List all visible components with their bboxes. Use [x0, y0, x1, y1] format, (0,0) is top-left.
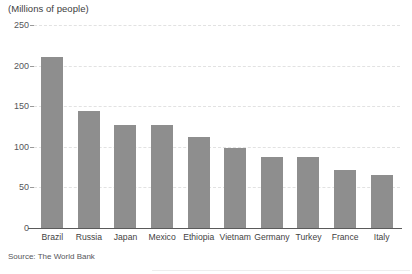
bar-slot: [144, 25, 181, 228]
bar: [114, 125, 136, 228]
bar-slot: [107, 25, 144, 228]
bar: [371, 175, 393, 228]
bar: [78, 111, 100, 228]
bar: [261, 157, 283, 228]
bar: [41, 57, 63, 228]
bar-slot: [254, 25, 291, 228]
x-axis-line: [28, 228, 402, 229]
bar-slot: [180, 25, 217, 228]
bar: [224, 148, 246, 228]
x-axis-label: Italy: [356, 232, 408, 242]
bar-slot: [217, 25, 254, 228]
bar-slot: [363, 25, 400, 228]
bar-slot: [290, 25, 327, 228]
chart-figure: (Millions of people) 050100150200250 Bra…: [0, 0, 412, 274]
y-axis-tick-label: 50: [19, 182, 29, 192]
bar-slot: [34, 25, 71, 228]
bar: [188, 137, 210, 228]
chart-axis-unit-title: (Millions of people): [8, 3, 89, 14]
plot-area: 050100150200250: [34, 25, 400, 228]
y-axis-tick-label: 200: [14, 61, 29, 71]
source-note: Source: The World Bank: [8, 252, 95, 261]
bar-slot: [327, 25, 364, 228]
bar: [334, 170, 356, 228]
y-axis-tick-label: 100: [14, 142, 29, 152]
y-axis-tick-label: 250: [14, 20, 29, 30]
y-axis-tick-label: 150: [14, 101, 29, 111]
bar: [297, 157, 319, 228]
bar: [151, 125, 173, 228]
bar-series: [34, 25, 400, 228]
footer-divider: [152, 270, 410, 271]
bar-slot: [71, 25, 108, 228]
